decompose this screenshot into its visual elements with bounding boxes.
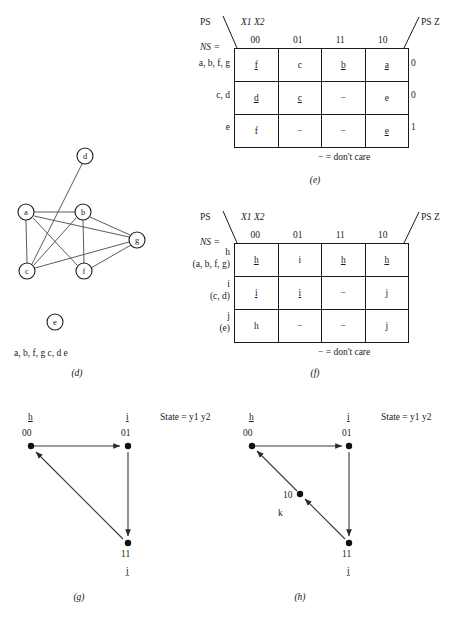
figure-h-caption: (h): [285, 592, 315, 602]
figure-h: h i j k 00 01 11 10 State = y1 y2: [232, 0, 464, 617]
figure-h-transition-11-10: [305, 499, 345, 539]
figure-sheet: PS X1 X2 PS Z NS = 00 01 11 10 a, b, f, …: [0, 0, 464, 617]
figure-h-state-dot-11: [346, 540, 352, 546]
figure-g-state-dot-01: [125, 443, 131, 449]
figure-h-state-dot-10: [297, 491, 303, 497]
figure-g-caption: (g): [64, 592, 94, 602]
figure-h-state-dot-01: [346, 443, 352, 449]
figure-h-transition-10-00: [257, 451, 297, 491]
figure-g-state-dot-11: [125, 540, 131, 546]
figure-h-transition-graph: [232, 420, 464, 600]
figure-g-transition-graph: [0, 420, 232, 600]
figure-g: h i j 00 01 11 State = y1 y2 (g): [0, 0, 232, 617]
figure-h-state-dot-00: [249, 443, 255, 449]
figure-g-transition-11-00: [36, 452, 123, 539]
figure-g-state-dot-00: [28, 443, 34, 449]
